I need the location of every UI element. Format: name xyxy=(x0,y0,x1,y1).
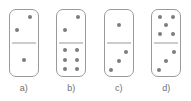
domino-tile-a-top-pip-2 xyxy=(15,28,19,32)
domino-tile-a-group: a) xyxy=(0,0,48,101)
domino-tile-d-divider xyxy=(154,43,178,44)
domino-tile-d-top-pip-5 xyxy=(171,32,175,36)
domino-tile-b-bottom-pip-1 xyxy=(63,48,67,52)
domino-tile-b-bottom-pip-6 xyxy=(75,67,79,71)
domino-tile-c-bottom-pip-3 xyxy=(109,68,113,72)
domino-tile-d-label: d) xyxy=(143,82,191,94)
domino-figure: a)b)c)d) xyxy=(0,0,190,101)
domino-tile-c-bottom-pip-2 xyxy=(117,59,121,63)
domino-tile-c-bottom-pip-1 xyxy=(124,50,128,54)
domino-tile-d-bottom-pip-1 xyxy=(172,50,176,54)
domino-tile-a-label: a) xyxy=(0,82,48,94)
domino-tile-d-bottom-pip-2 xyxy=(164,59,168,63)
domino-tile-b-bottom-half xyxy=(57,43,85,76)
domino-tile-b-bottom-pip-4 xyxy=(75,58,79,62)
domino-tile-c-group: c) xyxy=(95,0,143,101)
domino-tile-b-label: b) xyxy=(48,82,96,94)
domino-tile-b-bottom-pip-5 xyxy=(63,67,67,71)
domino-tile-c-top-pip-1 xyxy=(117,23,121,27)
domino-tile-c-label: c) xyxy=(95,82,143,94)
domino-tile-c-top-half xyxy=(105,10,133,43)
domino-tile-b-top-half xyxy=(57,10,85,43)
domino-tile-d-top-pip-1 xyxy=(158,15,162,19)
domino-tile-c[interactable] xyxy=(104,9,134,77)
domino-tile-d[interactable] xyxy=(151,9,181,77)
domino-tile-d-top-half xyxy=(152,10,180,43)
domino-tile-b-bottom-pip-3 xyxy=(63,58,67,62)
domino-tile-d-bottom-half xyxy=(152,43,180,76)
domino-tile-b[interactable] xyxy=(56,9,86,77)
domino-tile-b-top-pip-2 xyxy=(63,28,67,32)
domino-tile-c-bottom-half xyxy=(105,43,133,76)
domino-tile-b-bottom-pip-2 xyxy=(75,48,79,52)
domino-tile-c-divider xyxy=(107,43,131,44)
domino-tile-a-bottom-pip-1 xyxy=(22,58,26,62)
domino-tile-b-group: b) xyxy=(48,0,96,101)
domino-tile-a-top-pip-1 xyxy=(28,15,32,19)
domino-tile-b-top-pip-1 xyxy=(76,15,80,19)
domino-tile-d-top-pip-3 xyxy=(164,23,168,27)
domino-tile-d-top-pip-4 xyxy=(158,32,162,36)
domino-tile-d-group: d) xyxy=(143,0,191,101)
domino-tile-a-top-half xyxy=(10,10,38,43)
domino-tile-d-bottom-pip-3 xyxy=(157,68,161,72)
domino-tile-b-divider xyxy=(59,43,83,44)
domino-tile-d-top-pip-2 xyxy=(171,15,175,19)
domino-tile-a-divider xyxy=(12,43,36,44)
domino-tile-a-bottom-half xyxy=(10,43,38,76)
domino-tile-a[interactable] xyxy=(9,9,39,77)
